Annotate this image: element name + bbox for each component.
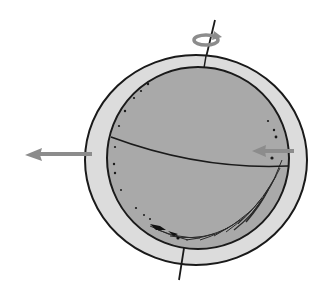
left-arrow-icon — [25, 148, 92, 161]
rotation-arrow-icon — [194, 31, 222, 45]
sphere-rotation-diagram — [0, 0, 331, 300]
inner-sphere — [107, 67, 289, 249]
